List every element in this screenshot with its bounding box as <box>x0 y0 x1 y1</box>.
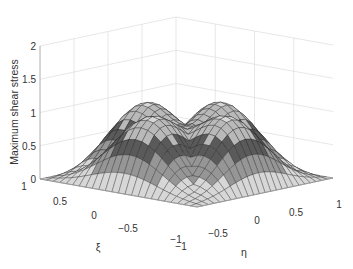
tick-label: 0.5 <box>22 141 36 152</box>
tick-label: 0 <box>254 215 260 226</box>
surface-mesh <box>40 102 333 207</box>
tick-label: 1 <box>21 181 27 192</box>
x-axis-label: ξ <box>96 241 101 253</box>
surface-plot: 00.511.5210.50−0.5−1−1−0.500.51 Maximum … <box>0 0 353 269</box>
tick-label: −1 <box>175 241 187 252</box>
tick-label: 2 <box>30 41 36 52</box>
tick-label: 0 <box>30 174 36 185</box>
tick-label: 1.5 <box>22 74 36 85</box>
tick-label: −0.5 <box>118 223 138 234</box>
tick-label: 0.5 <box>289 207 303 218</box>
tick-label: 0 <box>91 210 97 221</box>
tick-label: 0.5 <box>53 196 67 207</box>
y-axis-label: η <box>241 246 247 258</box>
z-axis-label: Maximum shear stress <box>8 59 20 165</box>
tick-label: −0.5 <box>208 228 228 239</box>
tick-label: 1 <box>30 108 36 119</box>
tick-label: 1 <box>336 199 342 210</box>
